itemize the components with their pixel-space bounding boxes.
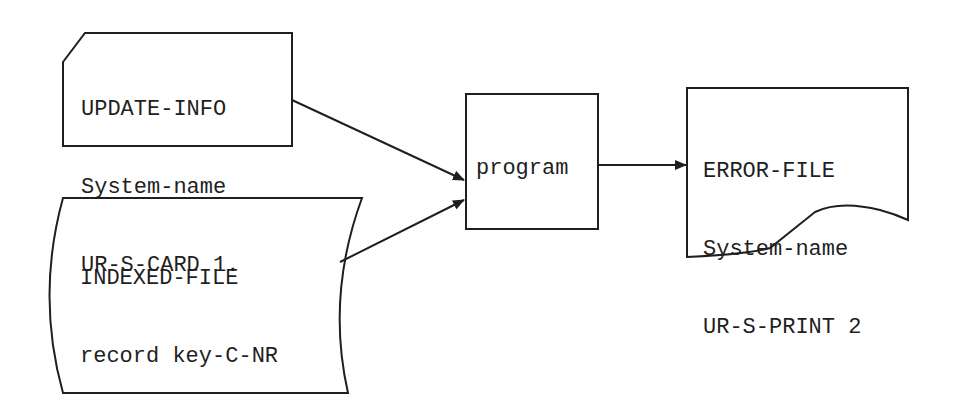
indexed-file-line-2: record key-C-NR — [80, 344, 278, 370]
program-line-1: program — [476, 156, 568, 182]
error-file-label: ERROR-FILE System-name UR-S-PRINT 2 — [703, 107, 861, 367]
indexed-file-label: INDEXED-FILE record key-C-NR symbolic ke… — [80, 214, 278, 418]
program-label: program — [476, 104, 568, 208]
arrow-update-to-program — [292, 100, 464, 180]
error-file-line-3: UR-S-PRINT 2 — [703, 315, 861, 341]
update-info-line-1: UPDATE-INFO — [81, 97, 239, 123]
update-info-line-2: System-name — [81, 175, 239, 201]
error-file-line-1: ERROR-FILE — [703, 159, 861, 185]
error-file-line-2: System-name — [703, 237, 861, 263]
indexed-file-line-1: INDEXED-FILE — [80, 266, 278, 292]
